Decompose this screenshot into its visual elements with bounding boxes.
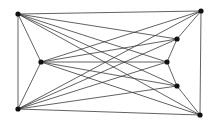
edge-R3-BR [177, 86, 200, 115]
edges-group [18, 11, 201, 115]
edge-TL-LM [18, 14, 41, 62]
edge-TR-BR [200, 11, 201, 115]
node-R3 [174, 83, 179, 88]
node-BR [197, 112, 202, 117]
edge-TL-R3 [18, 14, 177, 86]
node-TR [198, 8, 203, 13]
node-R2 [164, 59, 169, 64]
edge-TL-BR [18, 14, 200, 115]
edge-BL-BR [18, 109, 200, 115]
node-LM [38, 59, 43, 64]
edge-TL-TR [18, 11, 201, 14]
edge-TL-R2 [18, 14, 167, 62]
graph-diagram [0, 0, 215, 121]
edge-BL-R1 [18, 39, 177, 109]
edge-LM-BL [18, 62, 41, 109]
node-BL [15, 106, 20, 111]
edge-BL-R3 [18, 86, 177, 109]
node-TL [15, 11, 20, 16]
node-R1 [174, 36, 179, 41]
edge-BL-TR [18, 11, 201, 109]
